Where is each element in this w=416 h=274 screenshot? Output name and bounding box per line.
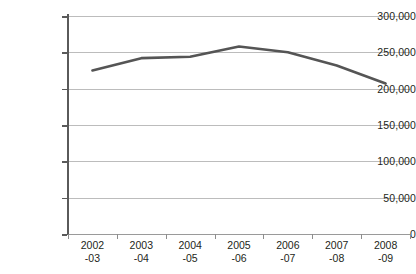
- x-axis-label-line1: 2004: [166, 239, 215, 252]
- y-axis-line: [67, 14, 69, 235]
- y-axis-label-300000: 300,000: [354, 11, 416, 22]
- x-axis-label-line1: 2005: [215, 239, 264, 252]
- x-axis-label-2008-09: 2008 -09: [361, 239, 410, 265]
- x-axis-label-line1: 2003: [117, 239, 166, 252]
- y-axis-label-50000: 50,000: [354, 193, 416, 204]
- y-axis-label-150000: 150,000: [354, 120, 416, 131]
- x-axis-label-line2: -09: [361, 252, 410, 265]
- x-axis-label-line2: -03: [68, 252, 117, 265]
- y-tick-200000: [62, 89, 67, 91]
- y-tick-300000: [62, 16, 67, 18]
- x-axis-label-2005-06: 2005 -06: [215, 239, 264, 265]
- x-axis-label-2006-07: 2006 -07: [263, 239, 312, 265]
- y-axis-label-250000: 250,000: [354, 47, 416, 58]
- x-axis-label-2007-08: 2007 -08: [312, 239, 361, 265]
- y-axis-label-0: 0: [354, 229, 416, 240]
- line-chart: 300,000 250,000 200,000 150,000 100,000 …: [0, 0, 416, 274]
- y-axis-label-200000: 200,000: [354, 84, 416, 95]
- x-axis-label-line1: 2007: [312, 239, 361, 252]
- x-axis-label-2002-03: 2002 -03: [68, 239, 117, 265]
- x-axis-label-2003-04: 2003 -04: [117, 239, 166, 265]
- x-axis-label-line1: 2002: [68, 239, 117, 252]
- y-tick-250000: [62, 52, 67, 54]
- x-axis-label-2004-05: 2004 -05: [166, 239, 215, 265]
- x-axis-label-line2: -05: [166, 252, 215, 265]
- x-axis-label-line2: -07: [263, 252, 312, 265]
- x-axis-label-line1: 2006: [263, 239, 312, 252]
- x-tick-7: [410, 234, 411, 239]
- x-axis-label-line2: -06: [215, 252, 264, 265]
- y-tick-150000: [62, 125, 67, 127]
- x-axis-label-line2: -04: [117, 252, 166, 265]
- y-tick-100000: [62, 161, 67, 163]
- x-axis-label-line1: 2008: [361, 239, 410, 252]
- y-tick-0: [62, 234, 67, 236]
- y-tick-50000: [62, 198, 67, 200]
- y-axis-label-100000: 100,000: [354, 156, 416, 167]
- x-axis-label-line2: -08: [312, 252, 361, 265]
